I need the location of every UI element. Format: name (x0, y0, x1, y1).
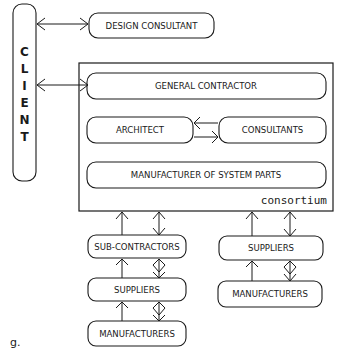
manufacturers-left-label: MANUFACTURERS (99, 328, 175, 339)
architect-label: ARCHITECT (116, 124, 165, 135)
up-arrow-icon (116, 212, 128, 235)
diamond-arrow-icon (153, 302, 165, 321)
design-consultant-label: DESIGN CONSULTANT (106, 20, 199, 31)
double-arrow-vertical-icon (284, 212, 296, 236)
client-box (13, 4, 36, 181)
up-arrow-icon (116, 302, 128, 321)
up-arrow-icon (246, 261, 258, 281)
client-letter: C (20, 45, 29, 59)
consortium-label: consortium (261, 194, 328, 207)
double-arrow-vertical-icon (153, 212, 165, 235)
suppliers-left-label: SUPPLIERS (114, 284, 160, 295)
consortium-diagram: C L I E N T DESIGN CONSULTANT consortium… (0, 0, 341, 356)
client-letter: T (20, 130, 29, 144)
client-letter: I (22, 79, 26, 93)
up-arrow-icon (246, 212, 258, 236)
consultants-label: CONSULTANTS (242, 124, 304, 135)
manufacturer-system-parts-label: MANUFACTURER OF SYSTEM PARTS (131, 169, 281, 180)
diamond-arrow-icon (284, 261, 296, 281)
figure-label: g. (10, 336, 20, 349)
manufacturers-right-label: MANUFACTURERS (232, 288, 308, 299)
client-letter: E (20, 96, 28, 110)
up-arrow-icon (116, 259, 128, 278)
suppliers-right-label: SUPPLIERS (248, 242, 294, 253)
double-arrow-icon (37, 18, 88, 30)
sub-contractors-label: SUB-CONTRACTORS (94, 241, 179, 252)
general-contractor-label: GENERAL CONTRACTOR (155, 80, 257, 91)
client-letter: L (21, 62, 29, 76)
client-letter: N (19, 113, 29, 127)
diamond-arrow-icon (153, 259, 165, 278)
